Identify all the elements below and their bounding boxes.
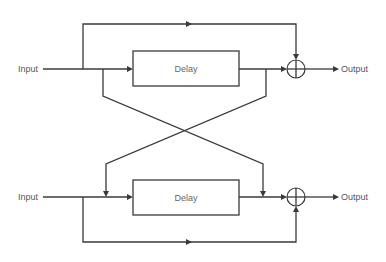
arrow-icon [293, 206, 299, 212]
delay-label-bottom: Delay [174, 193, 198, 203]
delay-label-top: Delay [174, 64, 198, 74]
arrow-icon [293, 54, 299, 60]
output-label-bottom: Output [341, 192, 369, 202]
arrow-icon [333, 194, 339, 200]
arrow-icon [186, 21, 192, 27]
input-label-top: Input [18, 64, 39, 74]
arrow-icon [186, 239, 192, 245]
delay-network-diagram: Input Delay Output Input Delay [0, 0, 386, 262]
sum-junction-top [287, 60, 305, 78]
arrow-icon [333, 66, 339, 72]
arrow-icon [127, 66, 133, 72]
arrow-icon [281, 66, 287, 72]
output-label-top: Output [341, 64, 369, 74]
arrow-icon [103, 191, 109, 197]
arrow-icon [260, 191, 266, 197]
sum-junction-bottom [287, 188, 305, 206]
input-label-bottom: Input [18, 192, 39, 202]
arrow-icon [281, 194, 287, 200]
arrow-icon [127, 194, 133, 200]
